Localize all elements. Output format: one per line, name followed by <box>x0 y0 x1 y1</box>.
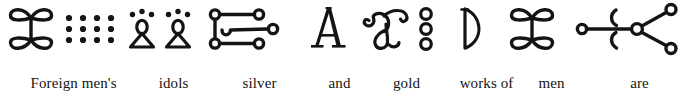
gloss-silver: silver <box>206 56 290 104</box>
glyph-two-triangle-figures-with-dots <box>126 0 198 58</box>
gloss-text: works of <box>460 75 514 91</box>
glyph-letter-a-serif <box>307 0 349 58</box>
gloss-are-created: are created <box>584 56 672 104</box>
gloss-gold: gold <box>364 56 426 104</box>
glyph-double-bowtie <box>508 0 558 58</box>
gloss-text: silver <box>243 75 277 91</box>
glyph-three-pronged-node-with-brackets <box>575 0 685 58</box>
gloss-text: and <box>329 75 351 91</box>
glyph-curled-scroll-with-three-circles <box>360 0 438 58</box>
gloss-text: men <box>538 75 564 91</box>
gloss-foreign-mens: Foreign men's <box>0 56 124 104</box>
gloss-idols: idols <box>128 56 196 104</box>
glyph-gloss-figure: Foreign men's idols silver and gold work… <box>0 0 691 104</box>
glyph-half-moon-d <box>452 0 492 58</box>
glyph-row <box>0 0 691 58</box>
gloss-text: idols <box>159 75 189 91</box>
gloss-text: Foreign men's <box>31 75 117 91</box>
gloss-text: gold <box>393 75 420 91</box>
glyph-ladder-with-circle-terminals <box>206 0 290 58</box>
gloss-row: Foreign men's idols silver and gold work… <box>0 56 691 104</box>
glyph-double-bowtie-with-dot-grid <box>8 0 116 58</box>
gloss-text: are <box>630 75 649 91</box>
gloss-works-of: works of <box>436 56 514 104</box>
gloss-men: men <box>512 56 568 104</box>
gloss-and: and <box>303 56 353 104</box>
